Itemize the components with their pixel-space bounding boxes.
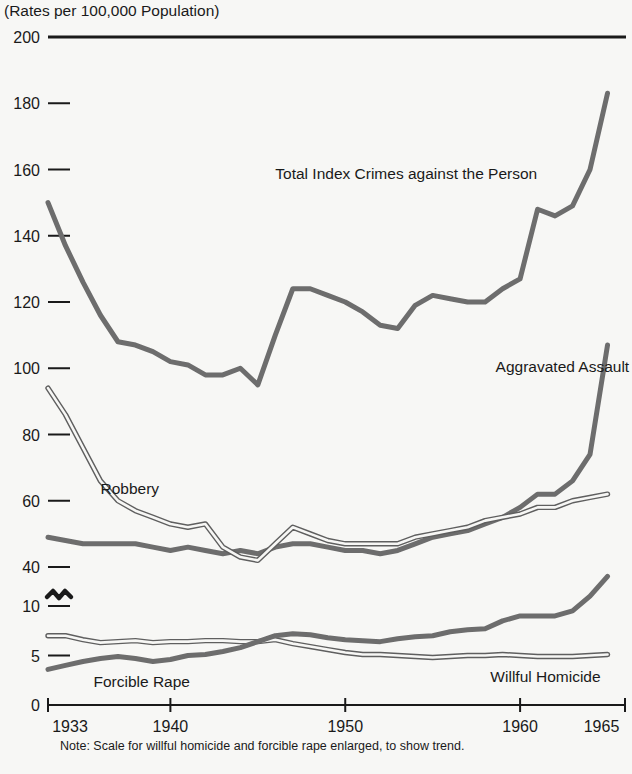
y-tick-label-80: 80 [22, 427, 40, 444]
series-label-total-index-crimes-against-the-person: Total Index Crimes against the Person [275, 165, 537, 182]
y-tick-label-120: 120 [13, 294, 40, 311]
chart-note: Note: Scale for willful homicide and for… [60, 739, 464, 753]
series-label-willful-homicide: Willful Homicide [490, 668, 600, 685]
series-label-robbery: Robbery [100, 480, 159, 497]
y-tick-label-10: 10 [22, 598, 40, 615]
x-tick-label-1940: 1940 [153, 718, 189, 735]
y-tick-label-60: 60 [22, 493, 40, 510]
y-tick-label-140: 140 [13, 228, 40, 245]
y-tick-label-180: 180 [13, 95, 40, 112]
y-tick-label-200: 200 [13, 29, 40, 46]
x-tick-label-1933: 1933 [52, 718, 88, 735]
y-tick-label-100: 100 [13, 360, 40, 377]
y-axis-unit-title: (Rates per 100,000 Population) [4, 2, 219, 19]
y-tick-label-160: 160 [13, 162, 40, 179]
y-tick-label-0: 0 [31, 697, 40, 714]
x-tick-label-1960: 1960 [502, 718, 538, 735]
x-tick-label-1965: 1965 [584, 718, 620, 735]
crime-rates-line-chart: (Rates per 100,000 Population) 200180160… [0, 0, 632, 774]
y-tick-label-5: 5 [31, 648, 40, 665]
y-tick-label-40: 40 [22, 559, 40, 576]
series-label-aggravated-assault: Aggravated Assault [496, 358, 630, 375]
series-label-forcible-rape: Forcible Rape [93, 673, 189, 690]
x-tick-label-1950: 1950 [327, 718, 363, 735]
